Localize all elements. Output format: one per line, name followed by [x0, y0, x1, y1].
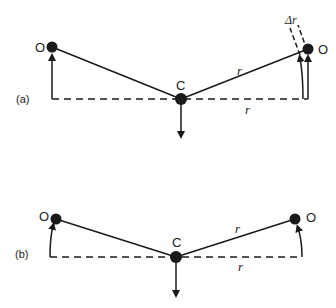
- left-mass-label: O: [39, 209, 49, 224]
- left-mass: [51, 214, 62, 225]
- panel-label: (b): [15, 248, 28, 260]
- radius-label-bottom: r: [245, 102, 251, 117]
- delta-r-line-1: [290, 28, 300, 55]
- right-arm: [181, 49, 308, 99]
- panel-b: O O C (b) r r: [15, 209, 316, 294]
- right-mass-label: O: [306, 210, 316, 225]
- right-mass: [303, 44, 314, 55]
- center-mass: [170, 251, 182, 263]
- left-mass-label: O: [35, 40, 45, 55]
- left-arm: [56, 219, 176, 257]
- center-label: C: [172, 235, 181, 250]
- radius-label-top: r: [235, 221, 241, 236]
- panel-a: O O C (a) r r Δr: [16, 13, 328, 135]
- radius-label-bottom: r: [238, 259, 244, 274]
- left-arc-arrow: [50, 226, 53, 257]
- right-mass: [290, 214, 301, 225]
- delta-r-label: Δr: [284, 13, 297, 27]
- panel-label: (a): [16, 93, 29, 105]
- right-mass-label: O: [318, 42, 328, 57]
- right-arc-arrow: [298, 228, 302, 257]
- left-arm: [52, 47, 181, 99]
- center-label: C: [176, 78, 185, 93]
- rotation-diagram: O O C (a) r r Δr O O C (b) r r: [0, 0, 336, 308]
- center-mass: [175, 93, 187, 105]
- left-mass: [47, 42, 58, 53]
- right-arc-arrow: [300, 58, 303, 99]
